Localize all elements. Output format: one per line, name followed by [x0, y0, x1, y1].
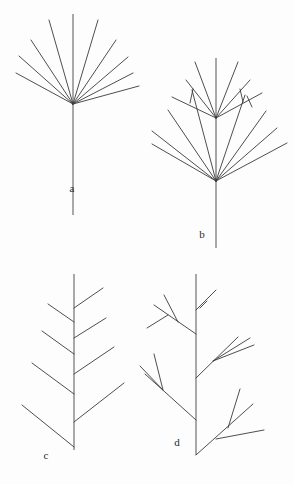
panel-label-group: abcd	[44, 182, 206, 461]
panel-a-ray-8	[73, 73, 133, 104]
panel-b-primary-ray-2	[152, 131, 216, 181]
panel-label-d: d	[174, 436, 180, 448]
panel-c-branch-1-right	[74, 288, 103, 308]
panel-b-sub-branch-3	[247, 96, 252, 107]
panel-b-primary-ray-4	[192, 90, 216, 181]
panel-c-branch-5-right	[74, 347, 114, 374]
panel-a-ray-4	[49, 20, 73, 104]
panel-a-ray-1	[16, 73, 73, 104]
panel-label-a: a	[70, 182, 75, 194]
panel-c-branch-4-left	[42, 331, 74, 354]
panel-d-branch-3-sub-2	[213, 345, 254, 361]
panel-c-branch-3-right	[74, 318, 106, 338]
panel-label-c: c	[44, 449, 49, 461]
panel-a-ray-5	[73, 20, 98, 104]
panel-c-branch-7-right	[74, 383, 124, 422]
panel-d-branch-4-left	[145, 374, 196, 420]
panel-d-compound-monopodial	[140, 274, 264, 455]
panel-b-sub-branch-1	[190, 89, 193, 103]
panel-d-branch-4-sub-1	[154, 354, 163, 390]
panel-d-branch-2-sub-2	[147, 315, 168, 328]
panel-d-branch-5-right	[196, 404, 253, 455]
panel-d-branch-5-sub-1	[228, 389, 240, 428]
panel-d-branch-3-sub-1	[213, 338, 250, 361]
panel-a-simple-umbel	[16, 14, 139, 215]
panel-d-branch-2-sub-1	[164, 295, 178, 322]
panel-d-branch-1-right	[196, 290, 216, 310]
panel-c-branch-8-left	[22, 405, 74, 447]
panel-c-branch-2-left	[48, 304, 74, 322]
panel-b-primary-ray-7	[216, 111, 266, 181]
panel-b-sub-branch-2	[240, 89, 243, 102]
panel-b-primary-ray-1	[152, 144, 216, 181]
panel-c-simple-monopodial	[22, 274, 124, 450]
branching-diagram-canvas: abcd	[0, 0, 294, 484]
panel-b-primary-ray-3	[168, 110, 216, 181]
figure-root: abcd	[0, 0, 294, 484]
panel-d-branch-3-right	[196, 337, 238, 378]
panel-label-b: b	[199, 228, 205, 240]
panel-b-secondary-ray-4	[216, 62, 238, 118]
panel-b-compound-umbel	[152, 58, 287, 248]
panel-c-branch-6-left	[32, 363, 74, 394]
panel-b-secondary-ray-5	[216, 80, 250, 118]
panel-d-branch-5-sub-2	[216, 430, 264, 439]
panel-b-secondary-ray-6	[216, 93, 262, 118]
